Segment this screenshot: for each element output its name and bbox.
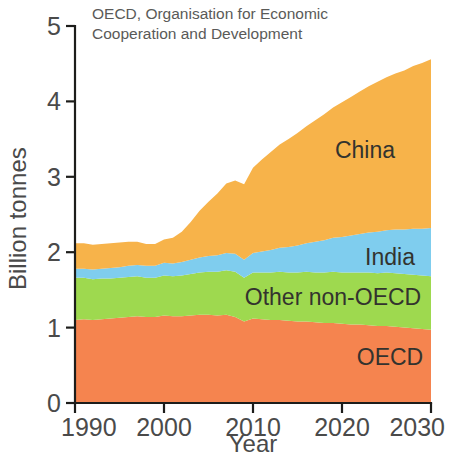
- x-tick-label: 1990: [61, 413, 117, 441]
- y-axis-title: Billion tonnes: [4, 147, 31, 290]
- series-label-india: India: [365, 244, 415, 270]
- y-tick-label: 0: [47, 389, 61, 417]
- series-label-oecd: OECD: [357, 344, 423, 370]
- y-tick-label: 4: [47, 87, 61, 115]
- y-tick-label: 5: [47, 12, 61, 40]
- caption-line-2: Cooperation and Development: [92, 25, 303, 42]
- y-axis-ticks: 012345: [47, 12, 75, 417]
- x-axis-title: Year: [229, 430, 278, 456]
- series-label-china: China: [335, 137, 395, 163]
- y-tick-label: 1: [47, 314, 61, 342]
- y-tick-label: 2: [47, 238, 61, 266]
- x-tick-label: 2030: [389, 413, 445, 441]
- x-tick-label: 2000: [136, 413, 192, 441]
- co2-emissions-stacked-area-chart: 012345 19902000201020202030 Billion tonn…: [0, 0, 462, 456]
- caption-line-1: OECD, Organisation for Economic: [92, 5, 328, 22]
- x-tick-label: 2020: [314, 413, 370, 441]
- chart-canvas: 012345 19902000201020202030 Billion tonn…: [0, 0, 462, 456]
- series-label-other-non-oecd: Other non-OECD: [245, 284, 421, 310]
- y-tick-label: 3: [47, 163, 61, 191]
